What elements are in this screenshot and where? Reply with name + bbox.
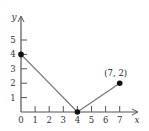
x-tick-label: 0 <box>18 115 23 125</box>
axes <box>18 16 138 115</box>
x-tick-label: 2 <box>46 115 51 125</box>
x-tick-label: 1 <box>32 115 37 125</box>
data-point <box>75 109 81 115</box>
data-point <box>117 80 123 86</box>
x-tick-label: 7 <box>117 115 122 125</box>
y-tick-label: 1 <box>10 93 15 103</box>
x-tick-label: 3 <box>61 115 66 125</box>
x-tick-label: 6 <box>103 115 108 125</box>
x-axis-label: x <box>134 115 139 125</box>
x-tick-label: 4 <box>75 115 80 125</box>
chart: 0123456712345xy(7, 2) <box>0 0 149 131</box>
data-point <box>18 52 24 58</box>
point-annotation: (7, 2) <box>104 68 127 78</box>
y-tick-label: 3 <box>10 64 15 74</box>
y-tick-label: 5 <box>10 35 15 45</box>
series <box>21 54 120 112</box>
x-tick-label: 5 <box>89 115 94 125</box>
y-axis-label: y <box>10 12 17 22</box>
y-tick-label: 4 <box>10 49 15 59</box>
series-line <box>21 54 120 112</box>
y-tick-label: 2 <box>10 78 15 88</box>
